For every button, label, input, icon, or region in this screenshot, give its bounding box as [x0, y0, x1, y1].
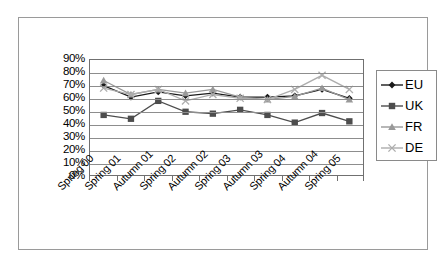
legend-item-de[interactable]: DE — [377, 137, 436, 158]
gridline — [90, 125, 363, 126]
y-axis-labels: 90%80%70%60%50%40%30%20%10%0% — [33, 59, 85, 176]
legend-label: FR — [405, 120, 422, 133]
legend-marker-cross-icon — [380, 141, 404, 155]
data-point-diamond — [389, 81, 396, 88]
legend-item-eu[interactable]: EU — [377, 74, 436, 95]
gridline — [90, 99, 363, 100]
y-axis-tick-label: 80% — [37, 66, 85, 78]
legend-label: EU — [405, 78, 423, 91]
legend-item-fr[interactable]: FR — [377, 116, 436, 137]
data-point-square — [389, 102, 395, 108]
legend-item-uk[interactable]: UK — [377, 95, 436, 116]
gridline — [90, 151, 363, 152]
x-axis-labels: Spring 00Spring 01Autumn 01Spring 02Autu… — [19, 178, 419, 258]
data-point-square — [346, 118, 352, 124]
chart-legend: EUUKFRDE — [376, 70, 437, 161]
legend-label: DE — [405, 141, 423, 154]
legend-label: UK — [405, 99, 423, 112]
y-axis-tick-label: 60% — [37, 92, 85, 104]
legend-marker-triangle-icon — [380, 120, 404, 134]
series-line — [104, 75, 350, 101]
data-point-square — [319, 110, 325, 116]
y-axis-tick-label: 90% — [37, 53, 85, 65]
y-axis-tick-label: 50% — [37, 105, 85, 117]
legend-marker-square-icon — [380, 99, 404, 113]
data-point-square — [128, 116, 134, 122]
chart-frame: 90%80%70%60%50%40%30%20%10%0% Spring 00S… — [18, 17, 428, 250]
gridline — [90, 73, 363, 74]
gridline — [90, 112, 363, 113]
y-axis-tick-label: 20% — [37, 144, 85, 156]
data-point-triangle — [100, 77, 108, 84]
y-axis-tick-label: 70% — [37, 79, 85, 91]
legend-marker-diamond-icon — [380, 78, 404, 92]
y-axis-tick-label: 40% — [37, 118, 85, 130]
y-axis-tick-label: 30% — [37, 131, 85, 143]
gridline — [90, 138, 363, 139]
gridline — [90, 86, 363, 87]
